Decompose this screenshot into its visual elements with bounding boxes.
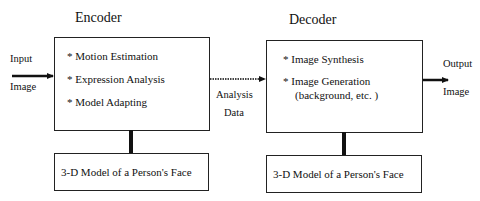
input-label-line1: Input (10, 53, 32, 64)
decoder-model-box: 3-D Model of a Person's Face (266, 155, 422, 193)
decoder-item-background-note: (background, etc. ) (295, 89, 378, 101)
encoder-model-connector (129, 130, 133, 154)
channel-label-line1: Analysis (216, 89, 253, 100)
decoder-model-connector (342, 132, 346, 156)
channel-label-line2: Data (224, 107, 244, 118)
decoder-item-image-synthesis: * Image Synthesis (283, 53, 364, 65)
decoder-box: * Image Synthesis * Image Generation (ba… (266, 40, 423, 133)
encoder-model-label: 3-D Model of a Person's Face (61, 166, 192, 178)
encoder-model-box: 3-D Model of a Person's Face (54, 153, 209, 191)
output-label-line2: Image (443, 86, 469, 97)
encoder-title: Encoder (75, 10, 122, 26)
input-label-line2: Image (10, 81, 36, 92)
output-label-line1: Output (443, 58, 472, 69)
decoder-model-label: 3-D Model of a Person's Face (273, 168, 404, 180)
encoder-box: * Motion Estimation * Expression Analysi… (54, 37, 210, 131)
encoder-item-motion-estimation: * Motion Estimation (67, 50, 158, 62)
decoder-item-image-generation: * Image Generation (283, 75, 370, 87)
encoder-item-model-adapting: * Model Adapting (67, 96, 147, 108)
decoder-title: Decoder (289, 12, 336, 28)
encoder-item-expression-analysis: * Expression Analysis (67, 73, 165, 85)
